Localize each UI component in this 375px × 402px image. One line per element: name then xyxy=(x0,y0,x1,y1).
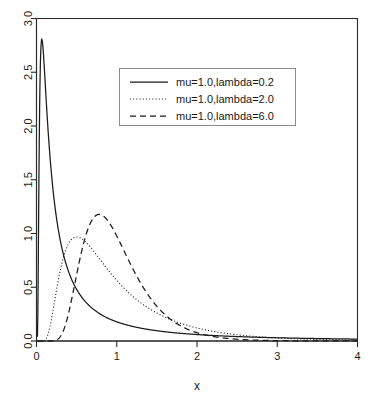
legend: mu=1.0,lambda=0.2mu=1.0,lambda=2.0mu=1.0… xyxy=(120,69,296,126)
x-tick-label: 4 xyxy=(354,350,360,362)
legend-label: mu=1.0,lambda=0.2 xyxy=(176,76,274,88)
x-tick-label: 1 xyxy=(114,350,120,362)
chart-background xyxy=(0,0,375,402)
x-tick-label: 2 xyxy=(194,350,200,362)
y-tick-label: 1.0 xyxy=(22,226,34,241)
y-tick-label: 1.5 xyxy=(22,172,34,187)
legend-label: mu=1.0,lambda=6.0 xyxy=(176,110,274,122)
legend-label: mu=1.0,lambda=2.0 xyxy=(176,93,274,105)
x-axis-title: x xyxy=(194,379,200,393)
y-tick-label: 0.5 xyxy=(22,280,34,295)
y-tick-label: 0.0 xyxy=(22,333,34,348)
x-tick-label: 3 xyxy=(274,350,280,362)
inverse-gaussian-density-plot: 0.00.51.01.52.02.53.0 01234 x mu=1.0,lam… xyxy=(0,0,375,402)
y-tick-label: 2.5 xyxy=(22,65,34,80)
y-tick-label: 2.0 xyxy=(22,118,34,133)
chart-container: 0.00.51.01.52.02.53.0 01234 x mu=1.0,lam… xyxy=(0,0,375,402)
y-tick-label: 3.0 xyxy=(22,11,34,26)
x-tick-label: 0 xyxy=(33,350,39,362)
